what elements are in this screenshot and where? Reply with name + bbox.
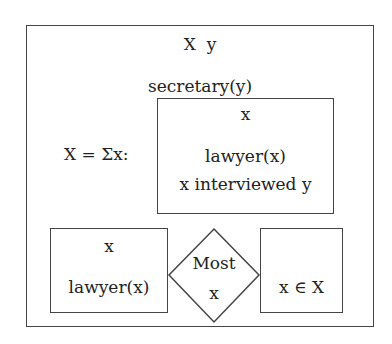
quantifier-variable: x [184, 283, 244, 303]
scope-box [260, 228, 343, 313]
scope-condition: x ∈ X [260, 277, 343, 297]
quantifier-label: Most [184, 253, 244, 273]
